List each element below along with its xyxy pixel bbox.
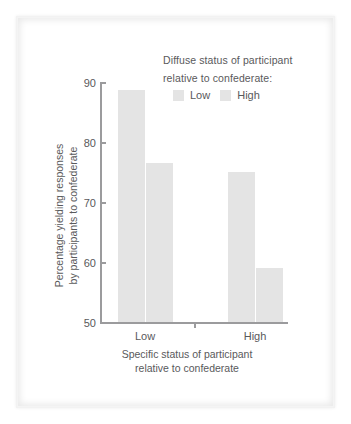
x-axis-title-line-2: relative to confederate bbox=[72, 362, 302, 376]
y-axis-tick-60 bbox=[101, 262, 106, 264]
legend-entries: Low High bbox=[163, 89, 338, 101]
legend-label-low: Low bbox=[190, 89, 210, 101]
y-axis-tick-50 bbox=[101, 322, 106, 324]
legend: Diffuse status of participant relative t… bbox=[163, 50, 338, 101]
y-axis-tick-label-50: 50 bbox=[72, 317, 96, 329]
figure-container: Diffuse status of participant relative t… bbox=[0, 0, 351, 424]
bar-specific-high-diffuse-low bbox=[228, 172, 255, 322]
legend-swatch-icon-low bbox=[173, 90, 184, 101]
legend-title-line-2: relative to confederate: bbox=[163, 72, 272, 84]
y-axis-title-line-1: Percentage yielding responses bbox=[53, 121, 67, 311]
x-axis-title: Specific status of participant relative … bbox=[72, 348, 302, 375]
bar-specific-low-diffuse-high bbox=[146, 163, 173, 322]
x-axis-category-label-low: Low bbox=[110, 330, 180, 342]
y-axis-title-line-2: by participants to confederate bbox=[66, 121, 80, 311]
x-axis-title-line-1: Specific status of participant bbox=[72, 348, 302, 362]
y-axis-tick-label-90: 90 bbox=[72, 77, 96, 89]
y-axis-tick-70 bbox=[101, 202, 106, 204]
legend-title-line-1: Diffuse status of participant bbox=[163, 54, 293, 66]
x-axis-tick-mid bbox=[194, 323, 196, 328]
legend-item-high[interactable]: High bbox=[220, 89, 260, 101]
x-axis-category-label-high: High bbox=[220, 330, 290, 342]
y-axis-tick-90 bbox=[101, 82, 106, 84]
legend-swatch-icon-high bbox=[220, 90, 231, 101]
bar-specific-low-diffuse-low bbox=[118, 90, 145, 322]
y-axis-title: Percentage yielding responses by partici… bbox=[53, 121, 80, 311]
legend-label-high: High bbox=[237, 89, 260, 101]
bar-chart: Diffuse status of participant relative t… bbox=[0, 0, 351, 424]
y-axis-tick-80 bbox=[101, 142, 106, 144]
bar-specific-high-diffuse-high bbox=[256, 268, 283, 322]
legend-item-low[interactable]: Low bbox=[173, 89, 210, 101]
